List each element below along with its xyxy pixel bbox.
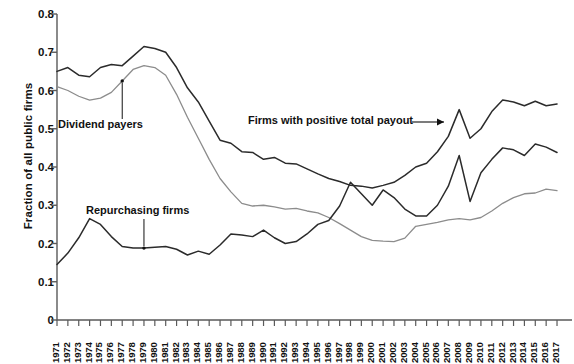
x-tick-label: 1987 (224, 342, 235, 363)
x-tick-label: 2013 (507, 342, 518, 363)
annotation-label-total-payout: Firms with positive total payout (248, 114, 413, 126)
x-tick-label: 1995 (311, 342, 322, 363)
x-tick-label: 2007 (441, 342, 452, 363)
annotation-dividend-payers (121, 79, 124, 119)
x-tick-label: 1998 (343, 342, 354, 363)
x-tick-label: 1988 (235, 342, 246, 363)
x-tick-label: 1972 (61, 342, 72, 363)
x-tick-label: 1982 (170, 342, 181, 363)
chart-axes (57, 14, 572, 320)
x-tick-label: 2006 (430, 342, 441, 363)
x-tick-label: 1981 (159, 342, 170, 363)
x-tick-label: 1980 (148, 342, 159, 363)
x-tick-label: 1973 (72, 342, 83, 363)
x-tick-label: 2017 (550, 342, 561, 363)
x-tick-label: 1979 (137, 342, 148, 363)
chart-plot-area (0, 0, 574, 364)
x-tick-label: 1990 (257, 342, 268, 363)
annotation-repurchasing-firms (142, 219, 145, 250)
x-tick-label: 1989 (246, 342, 257, 363)
x-tick-label: 1999 (354, 342, 365, 363)
x-tick-label: 2016 (539, 342, 550, 363)
x-tick-label: 1993 (289, 342, 300, 363)
x-tick-label: 1974 (83, 342, 94, 363)
annotation-label-repurchasing-firms: Repurchasing firms (86, 204, 189, 216)
annotation-total-payout (412, 119, 444, 126)
x-tick-label: 1978 (126, 342, 137, 363)
x-tick-label: 1985 (202, 342, 213, 363)
annotation-label-dividend-payers: Dividend payers (58, 118, 143, 130)
x-tick-label: 1971 (50, 342, 61, 363)
x-tick-label: 1994 (300, 342, 311, 363)
x-tick-label: 1983 (180, 342, 191, 363)
chart-figure: Fraction of all public firms 00.10.20.30… (0, 0, 574, 364)
x-tick-label: 2001 (376, 342, 387, 363)
x-tick-label: 2000 (365, 342, 376, 363)
x-tick-label: 1986 (213, 342, 224, 363)
x-tick-label: 1975 (93, 342, 104, 363)
x-axis-tick-labels: 1971197219731974197519761977197819791980… (0, 324, 574, 364)
x-tick-label: 2010 (474, 342, 485, 363)
x-tick-label: 1997 (333, 342, 344, 363)
x-tick-label: 2014 (517, 342, 528, 363)
x-tick-label: 2005 (420, 342, 431, 363)
x-tick-label: 1996 (322, 342, 333, 363)
x-tick-label: 2003 (398, 342, 409, 363)
x-tick-label: 1992 (278, 342, 289, 363)
x-tick-label: 2009 (463, 342, 474, 363)
x-tick-label: 2002 (387, 342, 398, 363)
x-tick-label: 2015 (528, 342, 539, 363)
x-tick-label: 1984 (191, 342, 202, 363)
x-tick-label: 2008 (452, 342, 463, 363)
x-tick-label: 2011 (485, 343, 496, 363)
x-tick-label: 1976 (104, 342, 115, 363)
x-tick-label: 1977 (115, 342, 126, 363)
x-tick-label: 2004 (409, 342, 420, 363)
x-tick-label: 1991 (267, 342, 278, 363)
x-tick-label: 2012 (496, 342, 507, 363)
